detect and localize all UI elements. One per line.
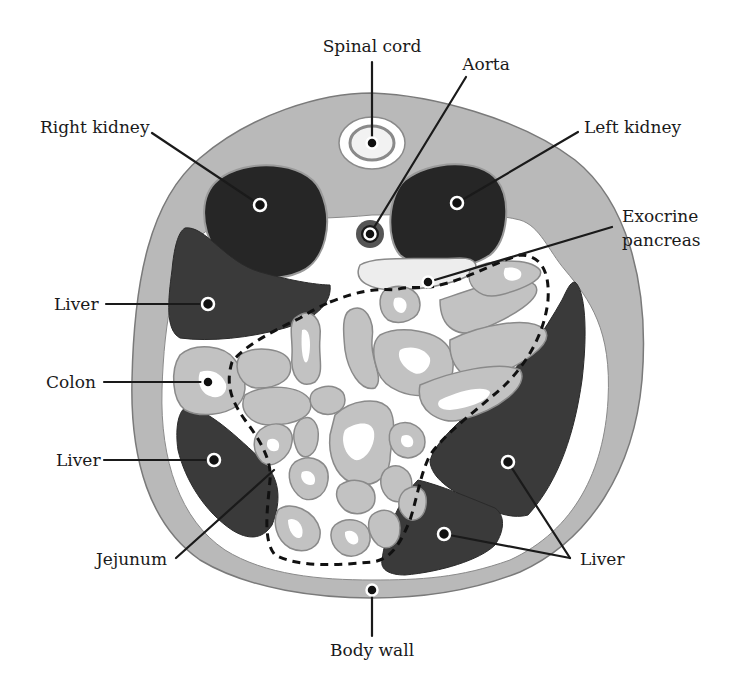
label-colon: Colon	[46, 372, 96, 392]
label-body-wall: Body wall	[330, 640, 414, 660]
label-liver-right: Liver	[580, 549, 625, 569]
label-aorta: Aorta	[461, 54, 510, 74]
left-kidney	[390, 164, 506, 268]
label-spinal-cord: Spinal cord	[323, 36, 422, 56]
dot-liver-lower-left	[208, 454, 220, 466]
label-left-kidney: Left kidney	[584, 117, 682, 137]
dot-body-wall	[367, 585, 378, 596]
label-exocrine-pancreas-line2: pancreas	[622, 230, 701, 250]
dot-liver-upper-left	[202, 298, 214, 310]
dot-right-kidney	[254, 199, 266, 211]
label-jejunum: Jejunum	[94, 549, 167, 569]
label-liver-lower-left: Liver	[56, 450, 101, 470]
cross-section-diagram: Spinal cord Aorta Right kidney Left kidn…	[0, 0, 731, 691]
dot-liver-right-upper	[502, 456, 514, 468]
dot-spinal-cord	[367, 138, 378, 149]
label-right-kidney: Right kidney	[40, 117, 150, 137]
dot-left-kidney	[451, 197, 463, 209]
label-liver-upper-left: Liver	[54, 294, 99, 314]
dot-exocrine-pancreas	[423, 277, 434, 288]
label-exocrine-pancreas-line1: Exocrine	[622, 206, 698, 226]
dot-aorta	[365, 229, 376, 240]
dot-colon	[203, 377, 214, 388]
dot-liver-right-lower	[438, 528, 450, 540]
